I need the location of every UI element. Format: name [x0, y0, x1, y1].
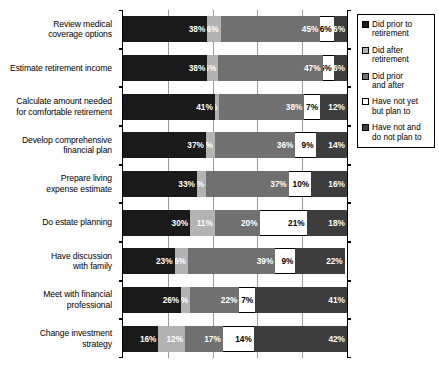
bar-segment: 10% [289, 171, 311, 197]
bar-segment-value-label: 30% [172, 218, 191, 228]
axis-tick [119, 165, 123, 166]
bar-row: 23%6%39%9%22% [123, 248, 347, 274]
category-label-line: coverage options [0, 29, 112, 40]
stacked-bar-chart: Review medicalcoverage optionsEstimate r… [0, 0, 439, 368]
bar-segment: 36% [215, 132, 296, 158]
bar-segment-value-label: 37% [270, 179, 289, 189]
bar-row: 37%4%36%9%14% [123, 132, 347, 158]
bar-segment-value-label: 4% [206, 140, 215, 150]
bar-segment: 21% [260, 210, 307, 236]
bar-segment-value-label: 14% [235, 334, 254, 344]
bar-segment: 22% [190, 287, 239, 313]
category-label-line: professional [0, 300, 112, 311]
bar-segment: 37% [206, 171, 289, 197]
legend-label-line: but plan to [372, 107, 418, 116]
legend-label-line: Have not yet [372, 97, 418, 106]
axis-tick [119, 126, 123, 127]
bar-segment-value-label: 6% [334, 63, 347, 73]
axis-tick [119, 203, 123, 204]
category-label-line: Develop comprehensive [0, 135, 112, 146]
bar-segment-value-label: 26% [163, 295, 182, 305]
bar-segment-value-label: 6% [320, 24, 333, 34]
axis-tick [347, 242, 351, 243]
bar-segment-value-label: 5% [207, 63, 218, 73]
legend-label-line: retirement [372, 55, 409, 64]
legend-item[interactable]: Did priorand after [362, 72, 431, 91]
bar-row: 33%4%37%10%16% [123, 171, 347, 197]
bar-segment: 33% [123, 171, 197, 197]
bar-segment: 12% [158, 326, 185, 352]
axis-tick [119, 281, 123, 282]
category-label: Change investmentstrategy [0, 328, 112, 349]
category-label-line: Review medical [0, 19, 112, 30]
bar-segment: 6% [175, 248, 188, 274]
bar-row: 41%2%38%7%12% [123, 94, 347, 120]
bar-segment: 9% [275, 248, 295, 274]
bar-segment-value-label: 36% [277, 140, 296, 150]
legend-swatch-icon [362, 47, 369, 54]
bar-segment-value-label: 22% [326, 256, 345, 266]
legend-item[interactable]: Have not yetbut plan to [362, 97, 431, 116]
axis-tick [119, 357, 123, 358]
bar-segment: 6% [334, 16, 347, 42]
bar-segment: 4% [181, 287, 190, 313]
axis-tick [119, 319, 123, 320]
bar-segment: 38% [123, 16, 207, 42]
legend-label: Have not yetbut plan to [372, 97, 418, 116]
legend-label-line: and after [372, 81, 404, 90]
bar-segment: 18% [307, 210, 347, 236]
bar-segment-value-label: 9% [302, 140, 316, 150]
bar-segment-value-label: 17% [204, 334, 223, 344]
bar-segment: 30% [123, 210, 190, 236]
legend-swatch-icon [362, 21, 369, 28]
category-label-line: strategy [0, 339, 112, 350]
category-label-line: Change investment [0, 328, 112, 339]
bar-segment: 4% [206, 132, 215, 158]
bar-segment-value-label: 5% [323, 63, 334, 73]
bar-segment-value-label: 38% [286, 102, 305, 112]
axis-tick [347, 281, 351, 282]
axis-tick [347, 165, 351, 166]
axis-tick [347, 319, 351, 320]
bar-segment: 23% [123, 248, 175, 274]
legend-label-line: do not plan to [372, 133, 422, 142]
category-label: Have discussionwith family [0, 251, 112, 272]
category-label: Estimate retirement income [0, 63, 112, 74]
category-label-line: Estimate retirement income [0, 63, 112, 74]
axis-tick [347, 87, 351, 88]
bar-segment-value-label: 38% [189, 24, 208, 34]
bar-segment: 16% [123, 326, 158, 352]
legend-item[interactable]: Did prior toretirement [362, 20, 431, 39]
axis-tick [347, 203, 351, 204]
legend-label: Did priorand after [372, 72, 404, 91]
bar-segment-value-label: 9% [281, 256, 295, 266]
bar-segment: 38% [219, 94, 304, 120]
bar-segment: 47% [218, 55, 322, 81]
legend-swatch-icon [362, 73, 369, 80]
chart-legend: Did prior toretirementDid afterretiremen… [357, 14, 435, 148]
category-label-line: Prepare living [0, 173, 112, 184]
legend-swatch-icon [362, 124, 369, 131]
bar-segment: 11% [190, 210, 215, 236]
bar-segment-value-label: 22% [221, 295, 240, 305]
bar-segment-value-label: 6% [207, 24, 220, 34]
category-label-line: Calculate amount needed [0, 96, 112, 107]
category-label: Develop comprehensivefinancial plan [0, 135, 112, 156]
bar-segment: 17% [185, 326, 223, 352]
bar-segment: 26% [123, 287, 181, 313]
bar-segment-value-label: 47% [304, 63, 323, 73]
bar-segment-value-label: 45% [302, 24, 321, 34]
bar-segment-value-label: 42% [328, 334, 347, 344]
bar-segment-value-label: 16% [328, 179, 347, 189]
category-label: Do estate planning [0, 217, 112, 228]
category-label: Calculate amount neededfor comfortable r… [0, 96, 112, 117]
bar-segment: 4% [197, 171, 206, 197]
bar-segment: 41% [255, 287, 347, 313]
legend-item[interactable]: Did afterretirement [362, 46, 431, 65]
bar-segment: 37% [123, 132, 206, 158]
category-label-line: with family [0, 261, 112, 272]
legend-item[interactable]: Have not anddo not plan to [362, 123, 431, 142]
axis-tick [119, 49, 123, 50]
bar-segment-value-label: 23% [156, 256, 175, 266]
bar-segment: 9% [295, 132, 315, 158]
